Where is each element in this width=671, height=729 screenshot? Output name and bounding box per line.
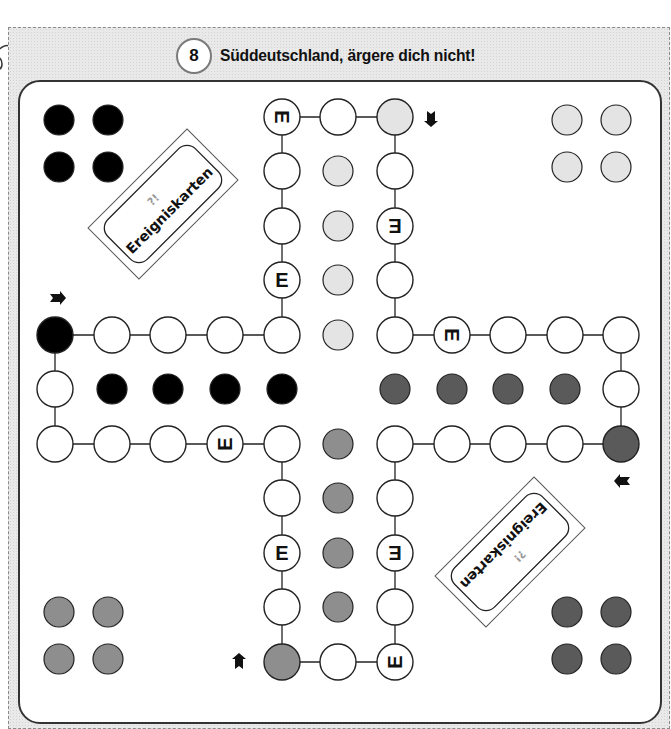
svg-text:E: E	[271, 110, 293, 123]
svg-text:E: E	[388, 215, 401, 237]
home-field-dark_gray[interactable]	[552, 597, 582, 627]
goal-field-mid[interactable]	[323, 483, 353, 513]
home-field-light_gray[interactable]	[601, 105, 631, 135]
event-field[interactable]: E	[377, 208, 413, 244]
goal-field-dark[interactable]	[493, 374, 523, 404]
track-field[interactable]	[264, 317, 300, 353]
event-field[interactable]: E	[377, 644, 413, 680]
track-field[interactable]	[320, 644, 356, 680]
track-field[interactable]	[377, 262, 413, 298]
track-field[interactable]	[434, 426, 470, 462]
track-field[interactable]	[377, 480, 413, 516]
track-field[interactable]	[547, 426, 583, 462]
home-field-black[interactable]	[93, 105, 123, 135]
home-field-dark_gray[interactable]	[552, 644, 582, 674]
home-field-light_gray[interactable]	[552, 105, 582, 135]
svg-text:E: E	[441, 328, 463, 341]
track-field[interactable]	[264, 153, 300, 189]
home-field-light_gray[interactable]	[552, 152, 582, 182]
goal-field-light[interactable]	[323, 265, 353, 295]
track-field[interactable]	[377, 426, 413, 462]
svg-text:E: E	[214, 437, 236, 450]
home-field-mid_gray[interactable]	[44, 644, 74, 674]
start-field-dark_gray[interactable]	[603, 426, 639, 462]
home-field-black[interactable]	[93, 152, 123, 182]
goal-field-black[interactable]	[153, 374, 183, 404]
direction-arrow-icon	[614, 474, 630, 488]
home-field-mid_gray[interactable]	[44, 597, 74, 627]
event-card-stack[interactable]: ?!Ereigniskarten	[88, 129, 238, 279]
svg-text:E: E	[388, 542, 401, 564]
track-field[interactable]	[547, 317, 583, 353]
track-field[interactable]	[490, 426, 526, 462]
goal-field-mid[interactable]	[323, 538, 353, 568]
track-field[interactable]	[264, 426, 300, 462]
goal-field-dark[interactable]	[550, 374, 580, 404]
home-field-dark_gray[interactable]	[601, 644, 631, 674]
direction-arrow-icon	[232, 653, 246, 669]
goal-field-black[interactable]	[267, 374, 297, 404]
track-field[interactable]	[490, 317, 526, 353]
event-field[interactable]: E	[434, 317, 470, 353]
goal-field-dark[interactable]	[437, 374, 467, 404]
start-field-light_gray[interactable]	[377, 99, 413, 135]
home-field-light_gray[interactable]	[601, 152, 631, 182]
home-field-mid_gray[interactable]	[93, 644, 123, 674]
track-field[interactable]	[37, 371, 73, 407]
track-field[interactable]	[603, 371, 639, 407]
goal-field-light[interactable]	[323, 320, 353, 350]
goal-field-mid[interactable]	[323, 592, 353, 622]
goal-field-dark[interactable]	[380, 374, 410, 404]
event-field[interactable]: E	[377, 535, 413, 571]
track-field[interactable]	[37, 426, 73, 462]
track-field[interactable]	[207, 317, 243, 353]
goal-field-light[interactable]	[323, 211, 353, 241]
track-field[interactable]	[264, 480, 300, 516]
home-field-black[interactable]	[44, 105, 74, 135]
direction-arrow-icon	[50, 291, 66, 305]
event-field[interactable]: E	[264, 262, 300, 298]
goal-field-mid[interactable]	[323, 429, 353, 459]
track-field[interactable]	[603, 317, 639, 353]
svg-text:E: E	[275, 542, 288, 564]
home-field-black[interactable]	[44, 152, 74, 182]
home-field-mid_gray[interactable]	[93, 597, 123, 627]
svg-text:E: E	[384, 655, 406, 668]
goal-field-black[interactable]	[210, 374, 240, 404]
track-field[interactable]	[264, 208, 300, 244]
svg-text:E: E	[275, 269, 288, 291]
event-field[interactable]: E	[207, 426, 243, 462]
event-field[interactable]: E	[264, 535, 300, 571]
track-field[interactable]	[94, 426, 130, 462]
track-field[interactable]	[94, 317, 130, 353]
track-field[interactable]	[377, 153, 413, 189]
track-field[interactable]	[264, 589, 300, 625]
direction-arrow-icon	[424, 111, 438, 127]
track-field[interactable]	[150, 426, 186, 462]
track-field[interactable]	[150, 317, 186, 353]
event-field[interactable]: E	[264, 99, 300, 135]
track-field[interactable]	[377, 317, 413, 353]
start-field-mid_gray[interactable]	[264, 644, 300, 680]
goal-field-light[interactable]	[323, 156, 353, 186]
start-field-black[interactable]	[37, 317, 73, 353]
goal-field-black[interactable]	[97, 374, 127, 404]
track-field[interactable]	[320, 99, 356, 135]
home-field-dark_gray[interactable]	[601, 597, 631, 627]
track-field[interactable]	[377, 589, 413, 625]
